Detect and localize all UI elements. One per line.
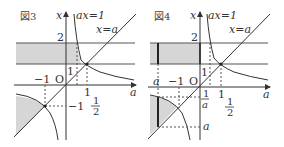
- point-1-1: [85, 62, 88, 65]
- a-axis-label: a: [130, 86, 137, 99]
- line-label: x=a: [96, 23, 118, 36]
- tick-2: 2: [191, 31, 198, 44]
- origin-label: O: [189, 75, 198, 88]
- tick-minus1-horizontal: −1: [34, 73, 50, 86]
- tick-minus1-vertical: −1: [68, 100, 84, 113]
- figure-4: 図4 x ax=1 x=a 2 1 O −1 a 1 a 1 a a 1 2: [148, 9, 270, 140]
- x-axis-label: x: [190, 9, 197, 22]
- diagram-canvas: 図3 x ax=1 x=a 2 1 O −1 1 a −1 1 2: [0, 0, 284, 147]
- tick-a-vertical: a: [203, 120, 210, 133]
- curve-label: ax=1: [208, 9, 237, 22]
- figure-3: 図3 x ax=1 x=a 2 1 O −1 1 a −1 1 2: [14, 9, 137, 140]
- x-axis-label: x: [56, 9, 63, 22]
- curve-label: ax=1: [76, 9, 105, 22]
- shaded-lower-region: [150, 96, 177, 135]
- svg-text:2: 2: [227, 107, 233, 118]
- svg-text:1: 1: [203, 88, 209, 99]
- tick-minus1-horizontal: −1: [168, 75, 184, 88]
- fraction-one-half: 1 2: [225, 96, 234, 118]
- figure-title: 図4: [154, 11, 170, 22]
- tick-1-vertical: 1: [201, 66, 208, 79]
- origin-label: O: [55, 73, 64, 86]
- tick-1-vertical: 1: [67, 65, 74, 78]
- svg-text:a: a: [202, 99, 208, 110]
- tick-1-horizontal: 1: [218, 88, 225, 101]
- tick-a-horizontal: a: [153, 75, 160, 88]
- tick-2: 2: [57, 31, 64, 44]
- shaded-lower-region: [16, 96, 45, 135]
- a-axis-label: a: [263, 88, 270, 101]
- shaded-band: [16, 43, 66, 64]
- svg-text:1: 1: [227, 96, 233, 107]
- svg-text:2: 2: [93, 106, 99, 117]
- figure-title: 図3: [20, 11, 36, 22]
- tick-1-horizontal: 1: [84, 86, 91, 99]
- point-minus1-minus1: [43, 104, 46, 107]
- fraction-one-half: 1 2: [91, 95, 100, 117]
- svg-text:1: 1: [93, 95, 99, 106]
- shaded-band-curve-part: [66, 43, 81, 64]
- fraction-one-over-a: 1 a: [201, 88, 209, 110]
- line-label: x=a: [229, 23, 251, 36]
- point-1-1: [219, 62, 222, 65]
